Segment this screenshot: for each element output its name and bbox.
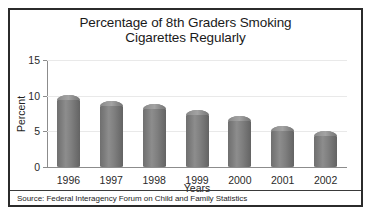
y-tick-label-0: 0 xyxy=(34,161,40,173)
y-tick-label-15: 15 xyxy=(28,54,40,66)
bar-cap-2000 xyxy=(228,116,251,121)
x-axis-label: Years xyxy=(47,182,347,194)
y-tick-label-5: 5 xyxy=(34,125,40,137)
bar-1998 xyxy=(143,104,166,167)
bar-cap-1998 xyxy=(143,104,166,109)
y-tick-label-10: 10 xyxy=(28,90,40,102)
bar-2001 xyxy=(271,126,294,167)
bar-1996 xyxy=(57,95,80,167)
plot-wrapper: Percent 051015 1996199719981999200020012… xyxy=(10,10,361,205)
y-axis-label: Percent xyxy=(15,96,27,132)
bar-cap-1999 xyxy=(186,110,209,115)
bar-cap-2001 xyxy=(271,126,294,131)
chart-figure: Percentage of 8th Graders Smoking Cigare… xyxy=(8,8,363,207)
bar-2000 xyxy=(228,116,251,167)
plot-area: 051015 1996199719981999200020012002 xyxy=(47,60,347,168)
source-note: Source: Federal Interagency Forum on Chi… xyxy=(17,194,247,203)
bar-cap-1996 xyxy=(57,95,80,100)
bar-cap-1997 xyxy=(100,101,123,106)
bar-1997 xyxy=(100,101,123,167)
bars-group xyxy=(47,60,347,168)
bar-cap-2002 xyxy=(314,131,337,136)
bar-2002 xyxy=(314,131,337,167)
bar-1999 xyxy=(186,110,209,167)
source-divider xyxy=(10,190,361,191)
